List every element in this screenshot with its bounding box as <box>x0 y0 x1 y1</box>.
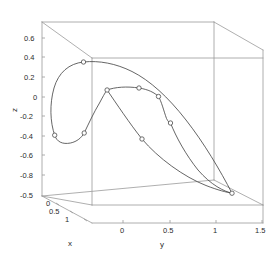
curve-descend-right <box>171 123 233 193</box>
ztick-label: -0.2 <box>20 113 33 121</box>
ytick-label: 1.5 <box>255 227 265 235</box>
xtick-0.5 <box>70 211 73 213</box>
ztick-label: -0.6 <box>20 152 33 160</box>
y-axis-ticks <box>123 220 262 223</box>
data-point-marker <box>156 94 160 98</box>
plot-window: 0.6 0.4 0.2 0 -0.2 -0.4 -0.6 -0.8 -0.5 0… <box>0 0 278 267</box>
curve-descend-from-peak <box>107 90 232 193</box>
curve-upper-arc <box>51 62 232 194</box>
ztick-label: -0.8 <box>20 172 33 180</box>
curve-lower-loop <box>55 133 84 143</box>
x-axis-label: x <box>68 240 72 248</box>
data-point-marker <box>105 88 109 92</box>
data-point-marker <box>53 133 57 137</box>
ztick-label: -0.5 <box>20 192 33 200</box>
data-point-marker <box>81 60 85 64</box>
box-edge-floor-right-diag <box>214 180 263 205</box>
ztick-label: 0.6 <box>24 35 34 43</box>
data-curve <box>51 62 232 194</box>
z-axis-ticks <box>42 38 45 175</box>
plot-canvas <box>0 0 278 267</box>
ztick-label: 0 <box>33 94 37 102</box>
ztick-label: 0.2 <box>24 74 34 82</box>
ztick-label: 0.4 <box>24 54 34 62</box>
ztick-label: -0.4 <box>20 133 33 141</box>
data-point-marker <box>168 121 172 125</box>
xtick-label: 1 <box>65 216 69 224</box>
xtick-label: 0.5 <box>49 208 59 216</box>
y-axis-label: y <box>160 241 164 249</box>
ytick-label: 1 <box>213 227 217 235</box>
data-point-marker <box>140 137 144 141</box>
ytick-label: 0.5 <box>163 227 173 235</box>
data-point-marker <box>230 191 234 195</box>
data-markers <box>53 60 235 196</box>
curve-rising-segment <box>84 90 107 133</box>
ytick-label: 0 <box>120 227 124 235</box>
curve-plateau <box>107 87 158 96</box>
data-point-marker <box>137 86 141 90</box>
box-edge-top-left-diag <box>42 22 92 58</box>
box-edge-top-right-diag <box>214 22 263 50</box>
box-edge-floor-back <box>42 180 214 196</box>
z-axis-label: z <box>11 108 19 112</box>
data-point-marker <box>82 131 86 135</box>
